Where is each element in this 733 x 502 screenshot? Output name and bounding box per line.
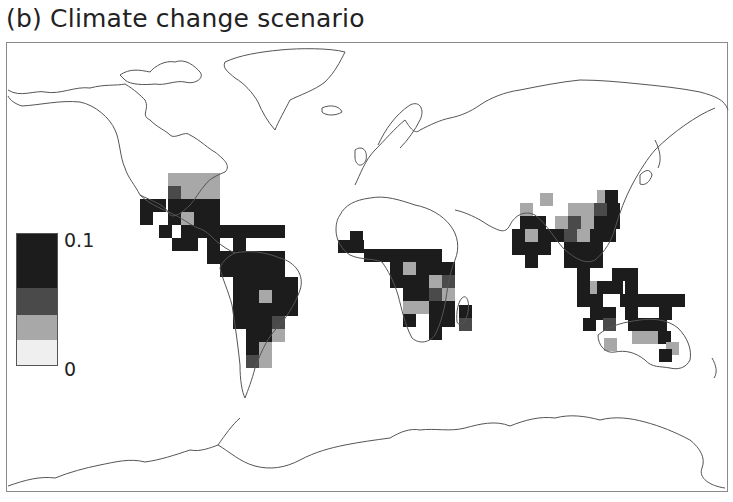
grid-cell-asia	[659, 294, 672, 307]
world-map	[0, 0, 733, 502]
grid-cell-asia	[603, 318, 616, 331]
grid-cell-africa	[429, 288, 442, 301]
legend-swatch-low	[16, 340, 58, 366]
grid-cell-asia	[607, 203, 620, 216]
coastline-antarctic-peninsula	[218, 418, 240, 445]
grid-cell-africa	[429, 249, 442, 262]
grid-cell-americas	[207, 251, 220, 264]
grid-cell-asia	[520, 216, 533, 229]
coastline-antarctica	[8, 416, 725, 488]
grid-cell-asia	[590, 294, 603, 307]
grid-cell-asia	[577, 229, 590, 242]
grid-cell-africa	[416, 288, 429, 301]
legend-max-label: 0.1	[64, 229, 94, 251]
grid-cell-americas	[140, 212, 153, 225]
grid-cell-asia	[568, 203, 581, 216]
grid-cell-asia	[525, 242, 538, 255]
grid-cell-asia	[594, 203, 607, 216]
grid-cell-americas	[272, 225, 285, 238]
grid-cell-africa	[429, 262, 442, 275]
grid-cell-americas	[194, 212, 207, 225]
grid-cell-africa	[416, 275, 429, 288]
grid-cell-asia	[577, 242, 590, 255]
grid-cell-africa	[403, 288, 416, 301]
grid-cell-africa	[459, 305, 472, 318]
grid-cell-asia	[659, 349, 672, 362]
grid-cell-asia	[610, 281, 623, 294]
grid-cell-americas	[233, 290, 246, 303]
color-legend	[16, 233, 58, 366]
grid-cell-asia	[672, 294, 685, 307]
grid-cell-americas	[259, 329, 272, 342]
grid-cell-americas	[181, 186, 194, 199]
grid-cell-africa	[429, 301, 442, 314]
grid-cell-americas	[272, 303, 285, 316]
grid-cell-asia	[597, 281, 610, 294]
grid-cell-asia	[564, 242, 577, 255]
grid-cell-americas	[194, 199, 207, 212]
grid-cell-africa	[416, 301, 429, 314]
grid-cell-asia	[590, 242, 603, 255]
grid-cell-americas	[285, 277, 298, 290]
grid-cell-americas	[168, 199, 181, 212]
grid-cell-asia	[564, 229, 577, 242]
grid-cell-africa	[442, 288, 455, 301]
grid-cell-americas	[140, 199, 153, 212]
grid-cell-asia	[612, 268, 625, 281]
grid-cell-asia	[577, 281, 590, 294]
coastline-iceland	[322, 106, 342, 115]
grid-cell-americas	[207, 225, 220, 238]
grid-cell-americas	[181, 225, 194, 238]
grid-cell-americas	[159, 225, 172, 238]
coastline-new-zealand	[712, 358, 716, 378]
grid-cell-americas	[259, 355, 272, 368]
grid-cell-americas	[233, 303, 246, 316]
coastline-europe	[355, 80, 728, 185]
grid-cell-asia	[538, 229, 551, 242]
grid-cell-asia	[512, 229, 525, 242]
grid-cell-asia	[594, 216, 607, 229]
grid-cell-americas	[246, 277, 259, 290]
grid-cell-americas	[233, 238, 246, 251]
grid-cell-americas	[207, 212, 220, 225]
coastline-arctic-islands	[120, 61, 201, 85]
grid-cell-americas	[246, 251, 259, 264]
grid-cell-asia	[632, 331, 645, 344]
grid-cell-asia	[525, 255, 538, 268]
grid-cell-asia	[581, 203, 594, 216]
grid-cell-americas	[259, 264, 272, 277]
grid-cell-asia	[512, 242, 525, 255]
grid-cell-americas	[168, 173, 181, 186]
grid-cell-americas	[207, 186, 220, 199]
grid-cell-asia	[633, 294, 646, 307]
grid-cell-americas	[259, 303, 272, 316]
grid-cell-asia	[604, 338, 617, 351]
grid-cell-asia	[620, 294, 633, 307]
grid-cell-americas	[172, 238, 185, 251]
grid-cell-africa	[390, 262, 403, 275]
grid-cell-americas	[207, 199, 220, 212]
grid-cell-asia	[568, 216, 581, 229]
grid-cell-americas	[181, 173, 194, 186]
grid-cell-americas	[246, 264, 259, 277]
grid-cell-americas	[259, 316, 272, 329]
grid-cell-americas	[194, 173, 207, 186]
grid-cell-africa	[351, 240, 364, 253]
grid-cell-africa	[403, 249, 416, 262]
grid-cell-africa	[390, 275, 403, 288]
grid-cell-africa	[416, 249, 429, 262]
coastline-scandinavia	[378, 104, 422, 148]
grid-cell-asia	[625, 268, 638, 281]
grid-cell-americas	[246, 225, 259, 238]
grid-cell-americas	[181, 212, 194, 225]
grid-cell-africa	[429, 275, 442, 288]
grid-cell-americas	[233, 225, 246, 238]
grid-cell-americas	[233, 277, 246, 290]
grid-cell-americas	[168, 186, 181, 199]
grid-cell-africa	[390, 249, 403, 262]
grid-cell-africa	[403, 275, 416, 288]
grid-cell-asia	[540, 193, 553, 206]
grid-cell-africa	[442, 314, 455, 327]
grid-cell-asia	[525, 229, 538, 242]
grid-cell-asia	[577, 268, 590, 281]
